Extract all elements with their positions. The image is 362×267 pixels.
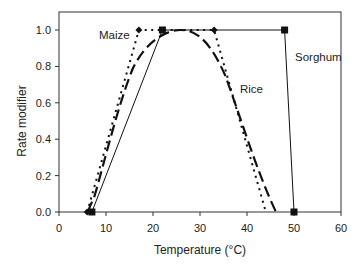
y-axis [55,30,59,212]
y-tick-label: 0.6 [36,97,51,109]
y-tick-label: 0.2 [36,170,51,182]
y-tick-label: 0.0 [36,206,51,218]
maize-label: Maize [99,29,130,41]
x-tick-label: 20 [147,222,159,234]
diamond-marker [211,27,218,34]
diamond-marker [135,27,142,34]
x-tick-label: 0 [56,222,62,234]
series-maize [84,27,266,216]
series-rice [88,30,276,212]
y-tick-labels: 0.0 0.2 0.4 0.6 0.8 1.0 [36,24,51,218]
x-tick-label: 10 [100,222,112,234]
rice-label: Rice [240,83,263,95]
temperature-rate-modifier-chart: 0.0 0.2 0.4 0.6 0.8 1.0 0 10 20 30 40 50… [0,0,362,267]
x-axis-title: Temperature (°C) [154,243,246,257]
x-axis [59,212,341,216]
x-tick-label: 50 [288,222,300,234]
y-axis-title: Rate modifier [15,85,29,156]
plot-area-frame [59,12,341,212]
y-tick-label: 0.8 [36,60,51,72]
x-tick-label: 30 [194,222,206,234]
square-marker [281,27,288,34]
y-tick-label: 0.4 [36,133,51,145]
x-tick-labels: 0 10 20 30 40 50 60 [56,222,347,234]
x-tick-label: 60 [335,222,347,234]
y-tick-label: 1.0 [36,24,51,36]
sorghum-label: Sorghum [295,51,342,63]
x-tick-label: 40 [241,222,253,234]
square-marker [291,209,298,216]
